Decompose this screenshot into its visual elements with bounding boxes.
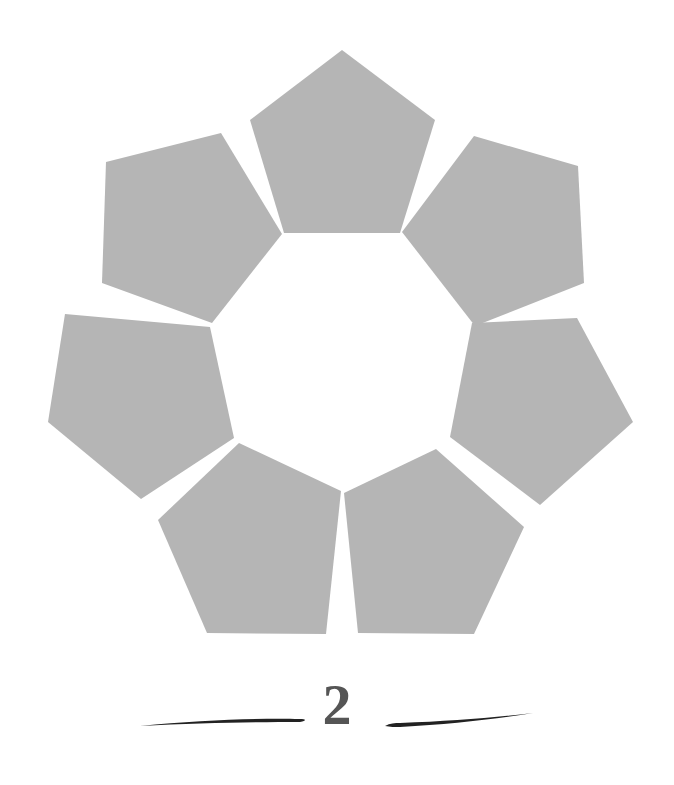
pentagon-ring-figure: 2 bbox=[0, 0, 674, 785]
pentagon-5 bbox=[344, 449, 524, 634]
pentagon-4 bbox=[158, 443, 341, 634]
pentagon-6 bbox=[450, 318, 633, 505]
page-number: 2 bbox=[0, 676, 674, 734]
pentagon-2 bbox=[102, 133, 282, 323]
pentagon-1 bbox=[250, 50, 435, 233]
pentagon-3 bbox=[48, 314, 234, 499]
pentagon-ring bbox=[0, 0, 674, 660]
pentagon-7 bbox=[402, 136, 584, 326]
